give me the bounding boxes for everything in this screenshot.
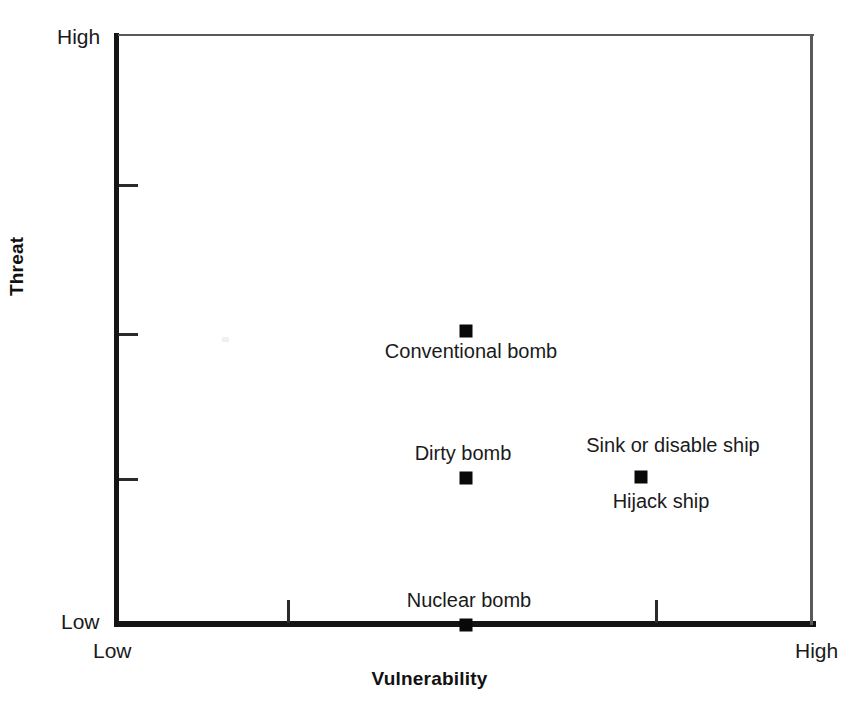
x-axis-label-low: Low bbox=[93, 639, 132, 663]
scan-artifact bbox=[222, 337, 229, 342]
x-axis-title: Vulnerability bbox=[0, 668, 859, 690]
data-label-conventional-bomb: Conventional bomb bbox=[385, 340, 557, 363]
data-label-sink-or-disable-ship: Sink or disable ship bbox=[586, 434, 759, 457]
x-axis-tick-077 bbox=[655, 600, 658, 623]
data-point-nuclear-bomb[interactable] bbox=[460, 619, 473, 632]
y-axis-line bbox=[114, 33, 119, 627]
data-point-conventional-bomb[interactable] bbox=[460, 325, 473, 338]
x-axis-label-high: High bbox=[795, 639, 838, 663]
y-axis-title: Threat bbox=[6, 237, 28, 296]
threat-vulnerability-chart: Threat Vulnerability High Low Low High C… bbox=[0, 0, 859, 719]
y-axis-tick-025 bbox=[119, 478, 138, 481]
data-label-hijack-ship: Hijack ship bbox=[613, 490, 710, 513]
plot-border-right bbox=[810, 35, 813, 625]
data-label-dirty-bomb: Dirty bomb bbox=[415, 442, 512, 465]
data-point-dirty-bomb[interactable] bbox=[460, 472, 473, 485]
y-axis-tick-075 bbox=[119, 184, 138, 187]
y-axis-label-low: Low bbox=[61, 610, 100, 634]
data-label-nuclear-bomb: Nuclear bomb bbox=[407, 589, 532, 612]
y-axis-label-high: High bbox=[57, 25, 100, 49]
x-axis-tick-025 bbox=[287, 600, 290, 623]
data-point-ship-attack[interactable] bbox=[635, 471, 648, 484]
plot-border-top bbox=[118, 34, 814, 36]
y-axis-tick-050 bbox=[119, 333, 138, 336]
